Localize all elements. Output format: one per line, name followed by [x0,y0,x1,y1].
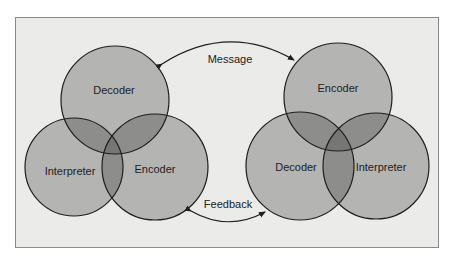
right-encoder-label: Encoder [318,82,359,94]
left-decoder-label: Decoder [93,84,135,96]
message-label: Message [208,53,253,65]
message-arrow: Message [162,42,294,65]
communication-diagram: Decoder Interpreter Encoder Encoder Deco… [0,0,454,262]
left-venn-group: Decoder Interpreter Encoder [25,46,208,220]
feedback-arrow-path [191,211,265,222]
feedback-label: Feedback [204,198,253,210]
right-decoder-label: Decoder [275,161,317,173]
left-interpreter-label: Interpreter [45,165,96,177]
right-interpreter-label: Interpreter [356,161,407,173]
left-encoder-label: Encoder [135,163,176,175]
right-venn-group: Encoder Decoder Interpreter [246,43,429,220]
feedback-arrow: Feedback [191,198,265,222]
